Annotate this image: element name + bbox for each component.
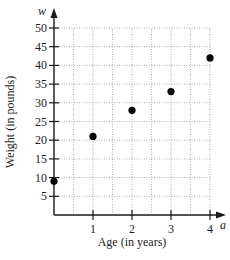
x-tick-label: 4 [207,222,213,236]
y-tick-label: 10 [35,171,47,185]
y-tick-label: 45 [35,40,47,54]
y-tick-label: 35 [35,77,47,91]
x-tick-label: 3 [168,222,174,236]
axes [51,8,227,219]
data-point [128,107,135,114]
y-tick-label: 15 [35,152,47,166]
y-axis-title: Weight (in pounds) [3,76,17,168]
x-tick-label: 2 [129,222,135,236]
x-variable-label: a [220,218,226,232]
data-point [50,178,57,185]
y-variable-label: w [38,4,46,18]
data-point [89,133,96,140]
x-tick-label: 1 [90,222,96,236]
y-axis-arrow-icon [51,8,58,18]
y-axis-ticks: 5101520253035404550 [35,21,59,203]
x-axis-ticks: 1234 [90,210,213,236]
y-tick-label: 25 [35,115,47,129]
x-axis-title: Age (in years) [98,235,167,249]
data-point [206,54,213,61]
y-tick-label: 40 [35,58,47,72]
y-tick-label: 50 [35,21,47,35]
scatter-chart: 5101520253035404550 1234 Weight (in poun… [0,0,230,260]
y-tick-label: 5 [41,189,47,203]
data-point [167,88,174,95]
y-tick-label: 30 [35,96,47,110]
grid-lines [54,28,210,215]
y-tick-label: 20 [35,133,47,147]
